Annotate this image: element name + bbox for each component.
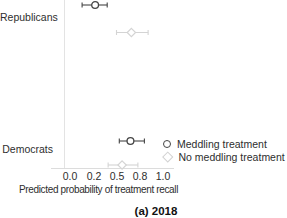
- legend-label-no-meddling: No meddling treatment: [179, 151, 285, 163]
- legend: Meddling treatment No meddling treatment: [163, 137, 285, 163]
- category-label-democrats: Democrats: [0, 143, 53, 156]
- figure: Republicans Democrats 0.0 0.2 0.5 0.8 1.…: [0, 0, 287, 218]
- legend-label-meddling: Meddling treatment: [177, 138, 267, 150]
- circle-marker-icon: [163, 140, 171, 148]
- x-tick-label-0: 0.0: [57, 170, 83, 182]
- y-axis-line: [64, 0, 65, 168]
- legend-item-meddling: Meddling treatment: [163, 137, 285, 150]
- category-label-republicans: Republicans: [0, 11, 53, 24]
- x-axis-line: [51, 168, 174, 169]
- legend-item-no-meddling: No meddling treatment: [163, 150, 285, 163]
- figure-caption: (a) 2018: [96, 205, 216, 217]
- diamond-marker-icon: [162, 151, 173, 162]
- x-tick-label-4: 1.0: [150, 170, 176, 182]
- x-axis-title: Predicted probability of treatment recal…: [19, 184, 178, 195]
